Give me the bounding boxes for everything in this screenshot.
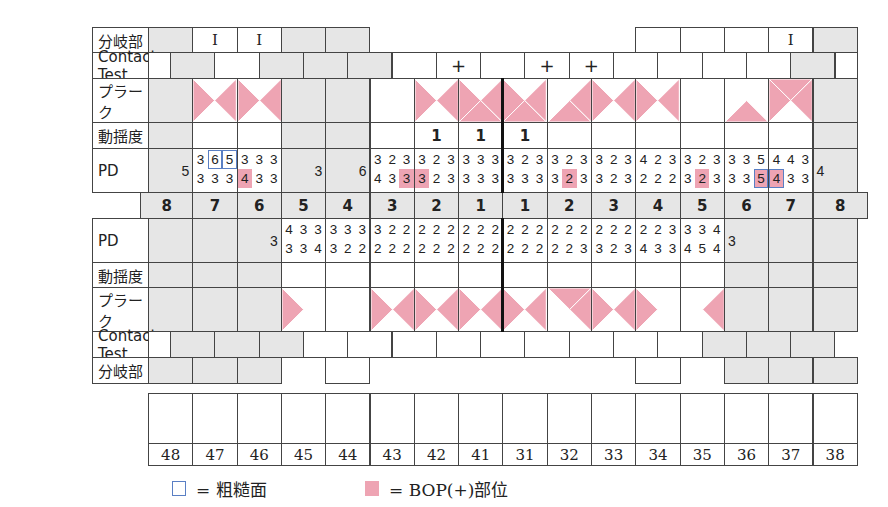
lower-contact-cell[interactable] (480, 331, 525, 358)
lower-plaque-cell[interactable] (148, 287, 193, 332)
drawing-box-45[interactable] (281, 393, 326, 444)
upper-plaque-cell[interactable] (414, 78, 459, 123)
upper-contact-cell[interactable]: + (436, 52, 481, 79)
upper-mobility-cell[interactable] (813, 122, 858, 149)
tooth-number-left-6[interactable]: 6 (724, 192, 769, 219)
upper-mobility-cell[interactable]: 1 (458, 122, 503, 149)
drawing-box-38[interactable] (813, 393, 858, 444)
tooth-number-right-1[interactable]: 1 (458, 192, 503, 219)
lower-contact-cell[interactable] (214, 331, 259, 358)
upper-contact-cell[interactable] (392, 52, 437, 79)
lower-contact-cell[interactable] (790, 331, 835, 358)
upper-furcation-cell[interactable] (813, 27, 858, 53)
upper-pd-cell[interactable]: 423222 (635, 148, 680, 193)
upper-plaque-cell[interactable] (768, 78, 813, 123)
upper-contact-cell[interactable] (214, 52, 259, 79)
lower-plaque-cell[interactable] (591, 287, 636, 332)
lower-plaque-cell[interactable] (458, 287, 503, 332)
lower-mobility-cell[interactable] (724, 262, 769, 288)
lower-pd-cell[interactable]: 433334 (281, 218, 326, 263)
lower-plaque-cell[interactable] (768, 287, 813, 332)
lower-mobility-cell[interactable] (547, 262, 592, 288)
upper-plaque-cell[interactable] (237, 78, 282, 123)
lower-pd-cell[interactable]: 322222 (370, 218, 415, 263)
upper-plaque-cell[interactable] (281, 78, 326, 123)
upper-pd-cell[interactable]: 6 (325, 148, 370, 193)
upper-contact-cell[interactable] (303, 52, 348, 79)
lower-pd-cell[interactable] (813, 218, 858, 263)
upper-contact-cell[interactable] (657, 52, 702, 79)
lower-mobility-cell[interactable] (192, 262, 237, 288)
upper-plaque-cell[interactable] (547, 78, 592, 123)
lower-pd-cell[interactable]: 333322 (325, 218, 370, 263)
tooth-number-left-7[interactable]: 7 (768, 192, 813, 219)
upper-furcation-cell[interactable] (325, 27, 370, 53)
drawing-box-32[interactable] (547, 393, 592, 444)
lower-contact-cell[interactable] (702, 331, 747, 358)
drawing-box-47[interactable] (192, 393, 237, 444)
upper-pd-cell[interactable]: 4 (813, 148, 858, 193)
upper-contact-cell[interactable] (746, 52, 791, 79)
upper-plaque-cell[interactable] (724, 78, 769, 123)
upper-contact-cell[interactable] (480, 52, 525, 79)
tooth-number-right-3[interactable]: 3 (370, 192, 415, 219)
upper-pd-cell[interactable]: 323433 (370, 148, 415, 193)
upper-contact-cell[interactable] (790, 52, 835, 79)
tooth-number-left-3[interactable]: 3 (591, 192, 636, 219)
lower-contact-cell[interactable] (613, 331, 658, 358)
lower-furcation-cell[interactable] (768, 357, 813, 384)
lower-furcation-cell[interactable] (635, 357, 680, 384)
upper-mobility-cell[interactable] (547, 122, 592, 149)
upper-plaque-cell[interactable] (502, 78, 547, 123)
lower-pd-cell[interactable]: 223433 (635, 218, 680, 263)
drawing-box-44[interactable] (325, 393, 370, 444)
lower-pd-cell[interactable]: 3 (237, 218, 282, 263)
lower-plaque-cell[interactable] (680, 287, 725, 332)
upper-plaque-cell[interactable] (813, 78, 858, 123)
lower-plaque-cell[interactable] (724, 287, 769, 332)
upper-mobility-cell[interactable] (724, 122, 769, 149)
upper-plaque-cell[interactable] (148, 78, 193, 123)
tooth-number-left-1[interactable]: 1 (502, 192, 547, 219)
drawing-box-35[interactable] (680, 393, 725, 444)
drawing-box-43[interactable] (370, 393, 415, 444)
lower-pd-cell[interactable] (148, 218, 193, 263)
upper-contact-cell[interactable] (613, 52, 658, 79)
upper-contact-cell[interactable] (170, 52, 215, 79)
drawing-box-34[interactable] (635, 393, 680, 444)
drawing-box-41[interactable] (458, 393, 503, 444)
lower-mobility-cell[interactable] (325, 262, 370, 288)
lower-pd-cell[interactable] (768, 218, 813, 263)
lower-contact-cell[interactable] (524, 331, 569, 358)
lower-pd-cell[interactable]: 222222 (458, 218, 503, 263)
lower-plaque-cell[interactable] (502, 287, 547, 332)
upper-mobility-cell[interactable] (325, 122, 370, 149)
lower-contact-cell[interactable] (569, 331, 614, 358)
lower-mobility-cell[interactable] (148, 262, 193, 288)
upper-plaque-cell[interactable] (591, 78, 636, 123)
upper-plaque-cell[interactable] (192, 78, 237, 123)
upper-mobility-cell[interactable] (237, 122, 282, 149)
drawing-box-37[interactable] (768, 393, 813, 444)
lower-mobility-cell[interactable] (502, 262, 547, 288)
lower-furcation-cell[interactable] (724, 357, 769, 384)
upper-pd-cell[interactable]: 323323 (680, 148, 725, 193)
upper-mobility-cell[interactable] (148, 122, 193, 149)
lower-contact-cell[interactable] (392, 331, 437, 358)
upper-contact-cell[interactable] (347, 52, 392, 79)
lower-plaque-cell[interactable] (281, 287, 326, 332)
lower-plaque-cell[interactable] (325, 287, 370, 332)
lower-plaque-cell[interactable] (370, 287, 415, 332)
lower-pd-cell[interactable]: 334454 (680, 218, 725, 263)
lower-furcation-cell[interactable] (148, 357, 193, 384)
upper-contact-cell[interactable]: + (569, 52, 614, 79)
tooth-number-left-2[interactable]: 2 (547, 192, 592, 219)
upper-furcation-cell[interactable] (724, 27, 769, 53)
lower-mobility-cell[interactable] (591, 262, 636, 288)
upper-mobility-cell[interactable] (635, 122, 680, 149)
lower-mobility-cell[interactable] (680, 262, 725, 288)
upper-plaque-cell[interactable] (370, 78, 415, 123)
lower-pd-cell[interactable]: 222222 (502, 218, 547, 263)
upper-plaque-cell[interactable] (325, 78, 370, 123)
upper-mobility-cell[interactable] (192, 122, 237, 149)
